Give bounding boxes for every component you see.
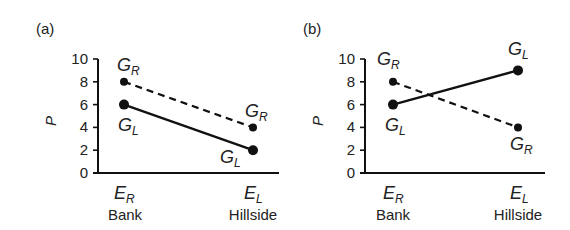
label-gl-hillside: GL xyxy=(220,147,241,170)
gr-point-bank xyxy=(120,78,128,86)
gl-point-bank xyxy=(388,100,398,110)
tick-6: 6 xyxy=(347,96,355,113)
y-axis-label: P xyxy=(309,116,326,126)
label-gl-bank: GL xyxy=(385,115,406,138)
x-cat-el: EL xyxy=(244,183,263,206)
x-cat-er: ER xyxy=(383,183,404,206)
gl-point-hillside xyxy=(513,65,523,75)
label-gl-bank: GL xyxy=(118,115,139,138)
series-gr-line xyxy=(124,82,253,128)
gl-point-bank xyxy=(119,100,129,110)
panel-a: (a) P 0 2 4 6 8 10 xyxy=(36,20,279,223)
tick-0: 0 xyxy=(80,164,88,181)
tick-0: 0 xyxy=(347,164,355,181)
tick-2: 2 xyxy=(80,141,88,158)
y-tick-labels: 0 2 4 6 8 10 xyxy=(338,50,355,181)
tick-2: 2 xyxy=(347,141,355,158)
x-cat-el: EL xyxy=(510,183,529,206)
panel-b-label: (b) xyxy=(303,20,321,37)
y-tick-labels: 0 2 4 6 8 10 xyxy=(71,50,88,181)
x-cat-er: ER xyxy=(114,183,135,206)
label-gr-bank: GR xyxy=(117,55,140,78)
gl-point-hillside xyxy=(248,145,258,155)
gr-point-bank xyxy=(389,78,397,86)
x-cat-bank: Bank xyxy=(376,206,411,223)
x-cat-hillside: Hillside xyxy=(229,206,277,223)
label-gr-hillside: GR xyxy=(245,101,268,124)
label-gl-hillside: GL xyxy=(508,39,529,62)
tick-4: 4 xyxy=(80,118,88,135)
tick-6: 6 xyxy=(80,96,88,113)
y-axis-label: P xyxy=(42,116,59,126)
series-gl-line xyxy=(124,105,253,151)
tick-10: 10 xyxy=(338,50,355,67)
label-gr-bank: GR xyxy=(377,49,400,72)
gr-point-hillside xyxy=(514,123,522,131)
series-gl-line xyxy=(393,70,518,104)
panel-a-label: (a) xyxy=(36,20,54,37)
tick-8: 8 xyxy=(80,73,88,90)
tick-8: 8 xyxy=(347,73,355,90)
tick-4: 4 xyxy=(347,118,355,135)
panel-b: (b) P 0 2 4 6 8 10 GR GL GL xyxy=(303,20,545,223)
figure: (a) P 0 2 4 6 8 10 xyxy=(0,0,570,230)
x-cat-bank: Bank xyxy=(108,206,143,223)
label-gr-hillside: GR xyxy=(510,134,533,157)
gr-point-hillside xyxy=(249,123,257,131)
tick-10: 10 xyxy=(71,50,88,67)
x-cat-hillside: Hillside xyxy=(494,206,542,223)
